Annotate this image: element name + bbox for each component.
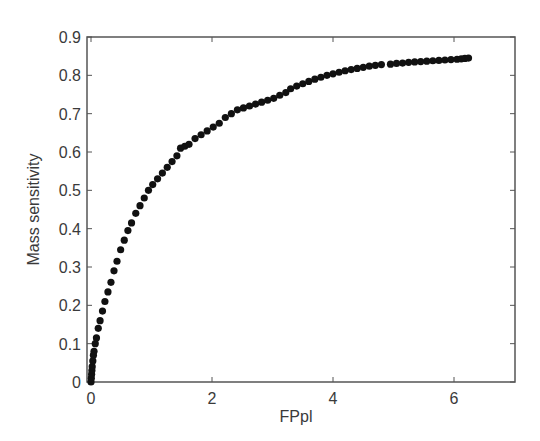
data-point xyxy=(378,61,385,68)
y-tick-label: 0.1 xyxy=(59,336,81,353)
data-point xyxy=(164,164,171,171)
x-tick-label: 0 xyxy=(87,390,96,407)
data-point xyxy=(366,63,373,70)
data-point xyxy=(149,181,156,188)
data-point xyxy=(110,267,117,274)
data-point xyxy=(465,54,472,61)
data-point xyxy=(121,237,128,244)
y-axis-label: Mass sensitivity xyxy=(25,153,42,265)
data-point xyxy=(154,175,161,182)
y-tick-label: 0.8 xyxy=(59,67,81,84)
data-point xyxy=(204,127,211,134)
data-point xyxy=(173,152,180,159)
data-point xyxy=(107,279,114,286)
y-tick-label: 0.7 xyxy=(59,106,81,123)
data-point xyxy=(141,194,148,201)
data-point xyxy=(216,120,223,127)
data-point xyxy=(99,307,106,314)
x-axis-label: FPpl xyxy=(280,408,313,425)
y-tick-label: 0.2 xyxy=(59,297,81,314)
data-point xyxy=(342,67,349,74)
data-point xyxy=(95,325,102,332)
data-point xyxy=(348,66,355,73)
x-tick-label: 6 xyxy=(450,390,459,407)
data-point xyxy=(329,70,336,77)
y-tick-label: 0 xyxy=(72,374,81,391)
y-tick-label: 0.6 xyxy=(59,144,81,161)
data-point xyxy=(185,141,192,148)
x-tick-label: 4 xyxy=(329,390,338,407)
plot-area xyxy=(87,37,515,382)
data-point xyxy=(387,61,394,68)
data-point xyxy=(96,317,103,324)
data-point xyxy=(136,202,143,209)
y-tick-label: 0.5 xyxy=(59,182,81,199)
data-point xyxy=(113,258,120,265)
data-point xyxy=(191,135,198,142)
data-point xyxy=(117,246,124,253)
data-point xyxy=(159,169,166,176)
data-point xyxy=(168,158,175,165)
x-tick-label: 2 xyxy=(208,390,217,407)
data-point xyxy=(104,288,111,295)
data-point xyxy=(323,72,330,79)
data-point xyxy=(210,123,217,130)
data-point xyxy=(128,219,135,226)
data-point xyxy=(354,65,361,72)
data-point xyxy=(145,187,152,194)
data-point xyxy=(90,348,97,355)
data-point xyxy=(228,110,235,117)
data-point xyxy=(101,298,108,305)
y-tick-label: 0.3 xyxy=(59,259,81,276)
data-point xyxy=(132,210,139,217)
data-point xyxy=(124,227,131,234)
data-point xyxy=(198,131,205,138)
scatter-chart: 0246 00.10.20.30.40.50.60.70.80.9 FPpl M… xyxy=(0,0,540,441)
data-point xyxy=(360,64,367,71)
data-point xyxy=(222,114,229,121)
data-point xyxy=(372,62,379,69)
data-point xyxy=(335,69,342,76)
y-tick-label: 0.4 xyxy=(59,221,81,238)
data-point xyxy=(93,334,100,341)
data-point xyxy=(399,59,406,66)
y-tick-label: 0.9 xyxy=(59,29,81,46)
